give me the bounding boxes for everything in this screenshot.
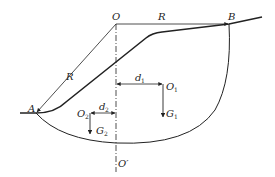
svg-text:1: 1 [174,113,178,120]
label-r-top: R [157,11,166,22]
svg-text:O: O [166,81,174,92]
label-a: A [27,103,35,114]
label-d1: d 1 [135,72,145,84]
label-o-prime: O′ [118,158,129,169]
label-b: B [227,11,235,22]
svg-text:2: 2 [105,106,109,113]
svg-text:1: 1 [141,77,145,84]
radius-line-oa [37,24,116,112]
label-d2: d 2 [99,101,109,113]
label-g2: G 2 [96,125,108,137]
svg-text:2: 2 [85,113,89,120]
slope-diagram: O R B R A d 1 O 1 G 1 O 2 d 2 G 2 O′ [0,0,275,177]
label-o2: O 2 [77,108,89,120]
svg-text:O: O [77,108,85,119]
svg-text:1: 1 [174,86,178,93]
label-o: O [112,11,120,22]
label-g1: G 1 [166,108,178,120]
label-o1: O 1 [166,81,178,93]
label-r-left: R [65,71,74,82]
svg-text:G: G [96,125,104,136]
svg-text:2: 2 [104,130,108,137]
slope-surface [20,17,262,113]
svg-text:G: G [166,108,174,119]
